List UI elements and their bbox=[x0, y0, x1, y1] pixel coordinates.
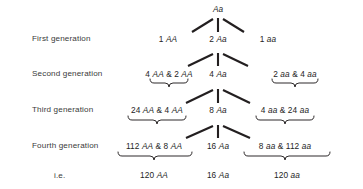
root-genotype: Aa bbox=[213, 4, 223, 14]
branch-left-gen3 bbox=[186, 90, 213, 103]
diagram-vector-layer bbox=[0, 0, 363, 189]
gen1-heterozygous: 2 Aa bbox=[209, 34, 226, 44]
gen4-homozygous-dominant: 112 AA & 8 AA bbox=[126, 141, 182, 151]
branch-right-gen1 bbox=[223, 19, 244, 32]
branch-lines-generation-2 bbox=[188, 53, 248, 66]
gen2-heterozygous: 4 Aa bbox=[209, 69, 226, 79]
gen3-homozygous-recessive: 4 aa & 24 aa bbox=[261, 105, 309, 115]
brace-gen3-right bbox=[256, 116, 314, 124]
brace-gen2-right bbox=[272, 79, 318, 87]
branch-lines-generation-1 bbox=[192, 18, 244, 32]
row-label-third-generation: Third generation bbox=[32, 105, 93, 114]
brace-gen2-left bbox=[150, 79, 188, 87]
brace-gen3-left bbox=[128, 116, 186, 124]
branch-left-gen1 bbox=[192, 19, 213, 32]
total-heterozygous: 16 Aa bbox=[207, 170, 229, 180]
branch-lines-generation-4 bbox=[186, 125, 250, 138]
gen4-homozygous-recessive: 8 aa & 112 aa bbox=[259, 141, 311, 151]
inheritance-diagram: Aa First generation 1 AA 2 Aa 1 aa Secon… bbox=[0, 0, 363, 189]
row-label-fourth-generation: Fourth generation bbox=[32, 141, 98, 150]
row-label-ie: i.e. bbox=[54, 171, 65, 180]
gen1-homozygous-recessive: 1 aa bbox=[260, 34, 277, 44]
brace-gen4-left bbox=[118, 152, 192, 160]
branch-right-gen2 bbox=[223, 54, 248, 66]
row-label-second-generation: Second generation bbox=[32, 69, 103, 78]
branch-right-gen4 bbox=[223, 126, 250, 138]
gen3-homozygous-dominant: 24 AA & 4 AA bbox=[131, 105, 183, 115]
branch-lines-generation-3 bbox=[186, 89, 250, 103]
branch-left-gen4 bbox=[186, 126, 213, 138]
branch-right-gen3 bbox=[223, 90, 250, 103]
gen2-homozygous-recessive: 2 aa & 4 aa bbox=[273, 69, 317, 79]
gen2-homozygous-dominant: 4 AA & 2 AA bbox=[145, 69, 192, 79]
gen1-homozygous-dominant: 1 AA bbox=[159, 34, 177, 44]
total-homozygous-recessive: 120 aa bbox=[274, 170, 300, 180]
gen4-heterozygous: 16 Aa bbox=[207, 141, 229, 151]
total-homozygous-dominant: 120 AA bbox=[140, 170, 168, 180]
row-label-first-generation: First generation bbox=[32, 34, 91, 43]
gen3-heterozygous: 8 Aa bbox=[209, 105, 226, 115]
brace-gen4-right bbox=[244, 152, 330, 160]
branch-left-gen2 bbox=[188, 54, 213, 66]
